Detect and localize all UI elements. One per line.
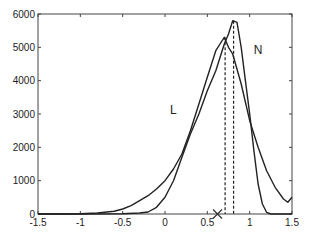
x-tick-label: 1 — [247, 217, 253, 228]
x-tick-label: 0.5 — [200, 217, 214, 228]
y-tick-label: 5000 — [13, 42, 36, 53]
curve-label-n: N — [254, 43, 263, 57]
x-tick-label: 1.5 — [285, 217, 299, 228]
y-tick-label: 2000 — [13, 142, 36, 153]
x-tick-label: -1.5 — [29, 217, 47, 228]
x-tick-label: -0.5 — [114, 217, 132, 228]
line-chart: 0100020003000400050006000 -1.5-1-0.500.5… — [0, 0, 313, 243]
y-tick-label: 6000 — [13, 9, 36, 20]
x-tick-label: 0 — [162, 217, 168, 228]
x-tick-label: -1 — [76, 217, 85, 228]
y-tick-label: 1000 — [13, 175, 36, 186]
curve-label-l: L — [170, 103, 177, 117]
y-tick-label: 3000 — [13, 109, 36, 120]
y-tick-label: 4000 — [13, 75, 36, 86]
